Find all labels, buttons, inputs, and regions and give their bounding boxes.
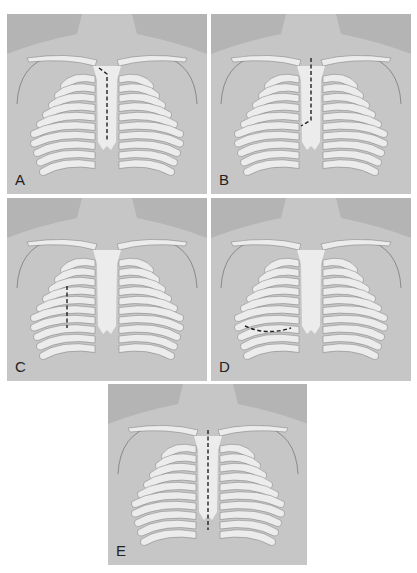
panel-a: A [7,14,207,194]
panel-label-a: A [15,171,25,188]
thorax-illustration-a [7,14,207,194]
panel-e: E [108,384,307,565]
thorax-illustration-b [211,14,411,194]
panel-c: C [7,198,207,381]
panel-label-e: E [116,542,126,559]
panel-d: D [211,198,411,381]
thorax-illustration-e [108,384,307,565]
panel-label-c: C [15,358,26,375]
thorax-illustration-d [211,198,411,381]
panel-b: B [211,14,411,194]
thorax-illustration-c [7,198,207,381]
panel-label-d: D [219,358,230,375]
panel-label-b: B [219,171,229,188]
